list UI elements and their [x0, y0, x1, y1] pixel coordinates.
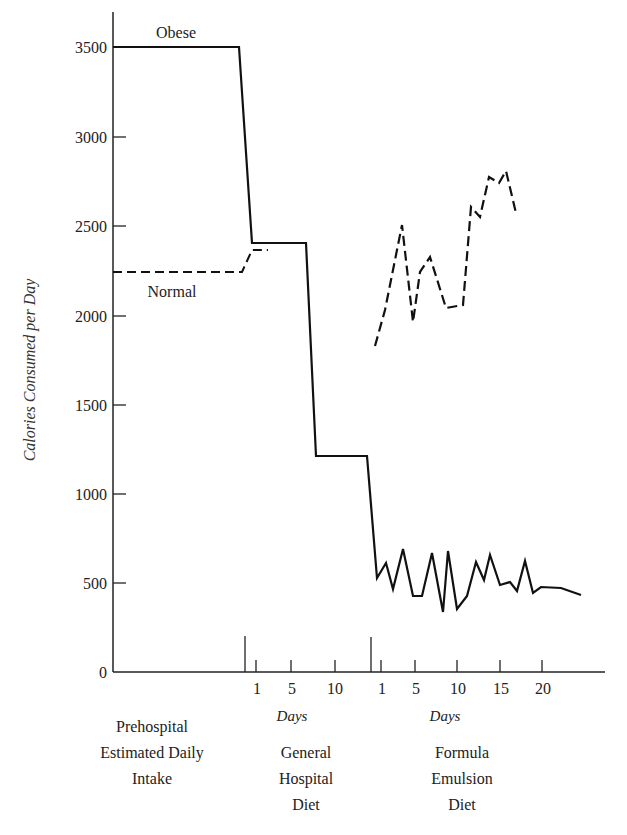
svg-text:Diet: Diet: [448, 796, 476, 813]
svg-text:Prehospital: Prehospital: [116, 718, 189, 736]
svg-text:Intake: Intake: [132, 770, 172, 787]
svg-text:Formula: Formula: [435, 744, 489, 761]
y-axis-title: Calories Consumed per Day: [21, 278, 39, 462]
y-tick-label: 2500: [75, 218, 107, 235]
normal-series-line-formula: [375, 171, 516, 346]
normal-series-label: Normal: [148, 283, 197, 300]
hospital-day-label: 5: [288, 680, 296, 697]
x-tick-labels: 1 5 10 1 5 10 15 20: [253, 680, 551, 697]
y-tick-label: 2000: [75, 308, 107, 325]
formula-day-label: 1: [378, 680, 386, 697]
hospital-days-label: Days: [276, 708, 308, 724]
y-tick-label: 500: [83, 575, 107, 592]
y-tick-label: 0: [99, 664, 107, 681]
y-ticks: [113, 137, 126, 583]
formula-day-label: 20: [535, 680, 551, 697]
x-ticks: [245, 636, 542, 672]
formula-days-label: Days: [429, 708, 461, 724]
formula-day-label: 15: [493, 680, 509, 697]
calories-chart: 0 500 1000 1500 2000 2500 3000 3500 Calo…: [0, 0, 627, 835]
obese-series-label: Obese: [156, 24, 196, 41]
y-tick-label: 3500: [75, 39, 107, 56]
y-tick-label: 1000: [75, 486, 107, 503]
obese-series-line: [113, 47, 581, 612]
y-tick-label: 3000: [75, 129, 107, 146]
phase-label-general-hospital: General Hospital Diet: [279, 744, 334, 813]
svg-text:Emulsion: Emulsion: [431, 770, 492, 787]
y-tick-labels: 0 500 1000 1500 2000 2500 3000 3500: [75, 39, 107, 681]
svg-text:Hospital: Hospital: [279, 770, 334, 788]
hospital-day-label: 1: [253, 680, 261, 697]
svg-text:General: General: [281, 744, 332, 761]
formula-day-label: 5: [412, 680, 420, 697]
normal-series-line-prehospital: [113, 250, 268, 272]
phase-label-prehospital: Prehospital Estimated Daily Intake: [100, 718, 204, 787]
y-tick-label: 1500: [75, 397, 107, 414]
formula-day-label: 10: [450, 680, 466, 697]
phase-label-formula-emulsion: Formula Emulsion Diet: [431, 744, 492, 813]
hospital-day-label: 10: [327, 680, 343, 697]
svg-text:Diet: Diet: [292, 796, 320, 813]
svg-text:Estimated Daily: Estimated Daily: [100, 744, 204, 762]
